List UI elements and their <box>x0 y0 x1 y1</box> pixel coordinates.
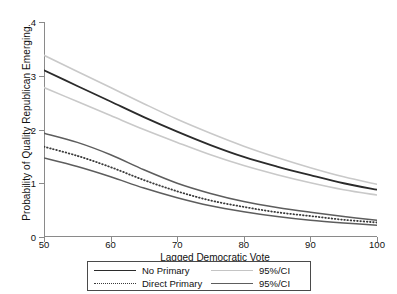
legend-label: No Primary <box>142 265 190 276</box>
series-line-direct-primary-ci-upper <box>44 133 377 220</box>
legend-row: Direct Primary 95%/CI <box>88 277 310 290</box>
legend-label: 95%/CI <box>259 278 290 289</box>
series-line-direct-primary <box>44 147 377 223</box>
x-tick-label: 50 <box>29 239 59 250</box>
legend-swatch-dotted-line-icon <box>94 279 136 288</box>
legend-item-direct-primary: Direct Primary <box>88 278 211 289</box>
x-tick-label: 60 <box>96 239 126 250</box>
legend-row: No Primary 95%/CI <box>88 264 310 277</box>
legend-label: 95%/CI <box>259 265 290 276</box>
series-line-no-primary-ci-upper <box>44 55 377 184</box>
x-tick-label: 70 <box>162 239 192 250</box>
chart-figure: Probability of Quality Republican Emergi… <box>0 0 397 294</box>
y-tick-label: .3 <box>14 70 36 81</box>
plot-area <box>44 22 377 237</box>
legend-swatch-mid-line-icon <box>211 279 253 288</box>
x-tick-label: 80 <box>229 239 259 250</box>
legend-swatch-light-line-icon <box>211 266 253 275</box>
x-tick-label: 90 <box>295 239 325 250</box>
legend-item-no-primary: No Primary <box>88 265 211 276</box>
legend-item-no-primary-ci: 95%/CI <box>211 265 310 276</box>
legend-swatch-solid-line-icon <box>94 266 136 275</box>
legend-label: Direct Primary <box>142 278 202 289</box>
y-tick-label: .4 <box>14 17 36 28</box>
y-tick-label: .1 <box>14 178 36 189</box>
chart-legend: No Primary 95%/CI Direct Primary 95%/CI <box>87 261 311 291</box>
y-tick-label: .2 <box>14 124 36 135</box>
legend-item-direct-primary-ci: 95%/CI <box>211 278 310 289</box>
x-tick-label: 100 <box>362 239 392 250</box>
